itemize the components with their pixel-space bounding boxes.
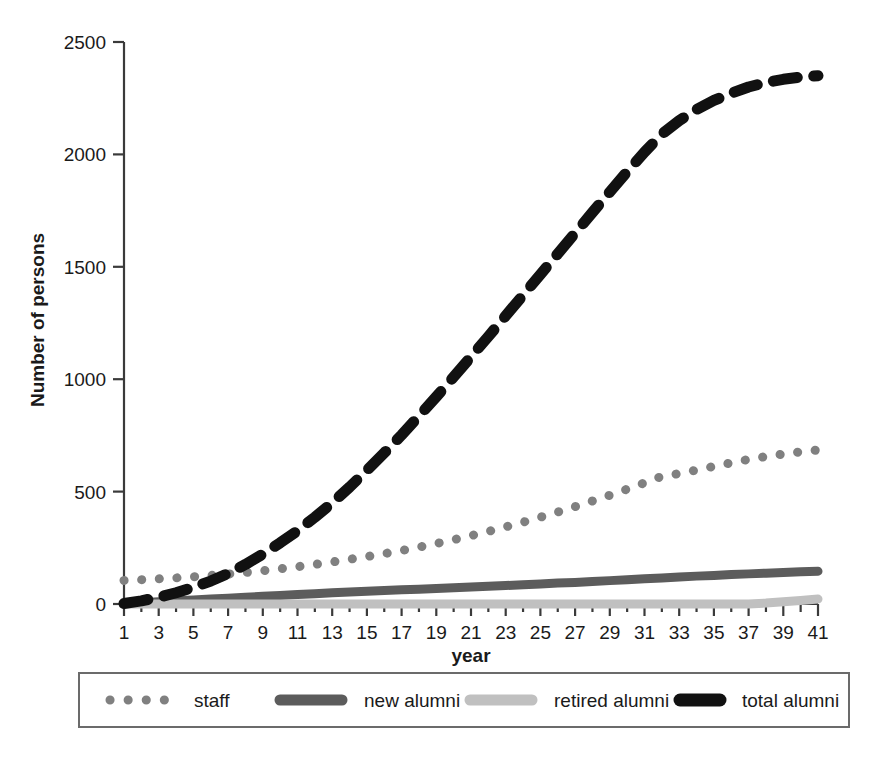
y-tick-label: 500 bbox=[74, 482, 106, 503]
x-tick-label: 23 bbox=[495, 622, 516, 643]
x-tick-label: 5 bbox=[188, 622, 199, 643]
x-tick-label: 41 bbox=[807, 622, 828, 643]
legend-label: retired alumni bbox=[554, 690, 669, 711]
y-tick-label: 1500 bbox=[64, 257, 106, 278]
x-tick-label: 13 bbox=[322, 622, 343, 643]
x-tick-label: 9 bbox=[258, 622, 269, 643]
axis-lines bbox=[124, 42, 818, 604]
x-tick-label: 15 bbox=[356, 622, 377, 643]
x-tick-label: 33 bbox=[669, 622, 690, 643]
x-tick-label: 19 bbox=[426, 622, 447, 643]
y-axis-title: Number of persons bbox=[27, 233, 48, 407]
data-series-layer bbox=[124, 76, 818, 604]
x-tick-label: 1 bbox=[119, 622, 130, 643]
y-tick-label: 2500 bbox=[64, 32, 106, 53]
x-tick-label: 31 bbox=[634, 622, 655, 643]
series-line-retired-alumni bbox=[124, 599, 818, 604]
y-tick-label: 0 bbox=[95, 594, 106, 615]
x-tick-label: 3 bbox=[153, 622, 164, 643]
x-tick-label: 7 bbox=[223, 622, 234, 643]
x-axis-ticks: 1357911131517192123252729313335373941 bbox=[119, 604, 829, 643]
y-axis-title-label: Number of persons bbox=[27, 233, 48, 407]
chart-figure: Number of persons year 05001000150020002… bbox=[0, 0, 878, 757]
series-line-total-alumni bbox=[124, 76, 818, 604]
x-tick-label: 35 bbox=[703, 622, 724, 643]
x-axis-title: year bbox=[451, 645, 491, 666]
legend-label: total alumni bbox=[742, 690, 839, 711]
y-tick-label: 1000 bbox=[64, 369, 106, 390]
x-axis-title-label: year bbox=[451, 645, 491, 666]
x-tick-label: 27 bbox=[565, 622, 586, 643]
series-line-staff bbox=[124, 450, 818, 580]
x-tick-label: 37 bbox=[738, 622, 759, 643]
legend-label: staff bbox=[194, 690, 230, 711]
y-axis-ticks: 05001000150020002500 bbox=[64, 32, 124, 615]
line-chart: Number of persons year 05001000150020002… bbox=[0, 0, 878, 757]
x-tick-label: 17 bbox=[391, 622, 412, 643]
chart-legend: staffnew alumniretired alumnitotal alumn… bbox=[79, 673, 849, 727]
x-tick-label: 25 bbox=[530, 622, 551, 643]
x-tick-label: 11 bbox=[288, 622, 308, 643]
x-tick-label: 29 bbox=[599, 622, 620, 643]
y-tick-label: 2000 bbox=[64, 144, 106, 165]
x-tick-label: 39 bbox=[773, 622, 794, 643]
legend-label: new alumni bbox=[364, 690, 460, 711]
x-tick-label: 21 bbox=[460, 622, 481, 643]
